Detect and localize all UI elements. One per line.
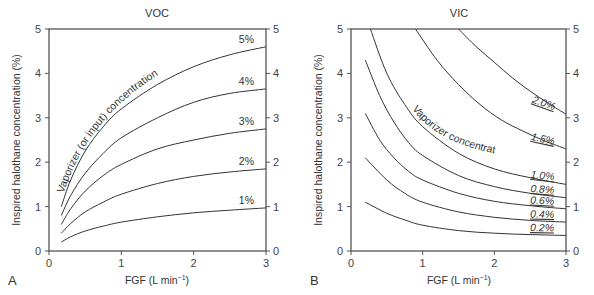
y-tick-label-right: 0 (573, 245, 579, 257)
curve-label: 0.4% (530, 207, 554, 220)
curve-label: 5% (239, 33, 254, 45)
y-tick-label-right: 4 (573, 67, 579, 79)
y-tick-label-right: 2 (273, 156, 279, 168)
x-axis-label-b: FGF (L min−1) (427, 274, 491, 286)
y-tick-label-left: 4 (35, 67, 41, 79)
y-tick-label-right: 3 (273, 112, 279, 124)
annotation-vaporizer-input-concentration: Vaporizer (or input) concentration (54, 66, 160, 194)
y-tick-label-right: 3 (573, 112, 579, 124)
y-tick-label-left: 5 (337, 23, 343, 35)
y-axis-label-a: Inspired halothane concentration (%) (10, 54, 22, 226)
plot-area-vic: 00112233445501232.0%1.5%1.0%0.8%0.6%0.4%… (337, 23, 579, 269)
curve-label: 2.0% (530, 93, 557, 112)
curve-label: 1% (239, 194, 254, 206)
y-tick-label-right: 1 (273, 201, 279, 213)
y-tick-label-left: 0 (337, 245, 343, 257)
panel-a-voc: VOC 00112233445501235%4%3%2%1% Inspired … (8, 7, 279, 288)
y-tick-label-left: 3 (337, 112, 343, 124)
x-tick-label: 3 (563, 257, 569, 269)
x-tick-label: 0 (46, 257, 52, 269)
y-axis-label-b: Inspired halothane concentration (%) (312, 54, 324, 226)
x-tick-label: 2 (191, 257, 197, 269)
x-tick-label: 2 (491, 257, 497, 269)
y-tick-label-left: 0 (35, 245, 41, 257)
plot-area-voc: 00112233445501235%4%3%2%1% (35, 23, 279, 269)
x-tick-label: 0 (348, 257, 354, 269)
y-tick-label-left: 4 (337, 67, 343, 79)
panel-letter-b: B (310, 273, 319, 288)
y-tick-label-left: 2 (35, 156, 41, 168)
x-tick-label: 3 (263, 257, 269, 269)
y-tick-label-left: 1 (337, 201, 343, 213)
chart-title-vic: VIC (450, 7, 468, 19)
y-tick-label-right: 0 (273, 245, 279, 257)
y-tick-label-right: 5 (273, 23, 279, 35)
curve-label: 2% (239, 155, 254, 167)
curve-label: 1.0% (530, 168, 555, 183)
curve-1pct (61, 208, 266, 242)
curve-label: 1.5% (530, 130, 556, 147)
y-tick-label-right: 4 (273, 67, 279, 79)
curve-1-0pct (370, 29, 566, 184)
x-tick-label: 1 (420, 257, 426, 269)
y-tick-label-right: 5 (573, 23, 579, 35)
curve-2pct (61, 169, 266, 233)
y-tick-label-left: 1 (35, 201, 41, 213)
y-tick-label-left: 2 (337, 156, 343, 168)
x-axis-label-a: FGF (L min−1) (125, 274, 189, 286)
chart-title-voc: VOC (145, 7, 169, 19)
x-tick-label: 1 (118, 257, 124, 269)
y-tick-label-left: 3 (35, 112, 41, 124)
panel-letter-a: A (8, 273, 17, 288)
curve-label: 3% (239, 115, 254, 127)
curve-label: 4% (239, 75, 254, 87)
figure: VOC 00112233445501235%4%3%2%1% Inspired … (0, 0, 594, 295)
curve-label: 0.2% (530, 221, 554, 233)
y-tick-label-left: 5 (35, 23, 41, 35)
y-tick-label-right: 2 (573, 156, 579, 168)
y-tick-label-right: 1 (573, 201, 579, 213)
curve-label: 0.6% (530, 194, 555, 207)
curve-4pct (61, 89, 266, 216)
